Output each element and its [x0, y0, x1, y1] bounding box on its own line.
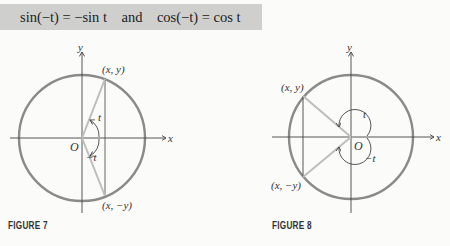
x-axis-label: x	[435, 131, 441, 143]
figure-7-caption: FIGURE 7	[8, 220, 48, 231]
upper-point-label: (x, y)	[102, 63, 125, 76]
origin-label: O	[354, 139, 363, 153]
y-axis-label: y	[346, 41, 352, 53]
radius-neg-t	[303, 137, 351, 177]
radius-neg-t	[82, 138, 105, 196]
angle-neg-t-label: −t	[365, 152, 376, 164]
angle-t-label: t	[98, 111, 102, 123]
figures-canvas: y x O (x, y) (x, −y) t −t y x O (x, y) (…	[0, 0, 450, 246]
figure-7-diagram: y x O (x, y) (x, −y) t −t	[10, 41, 173, 213]
radius-t	[303, 96, 351, 137]
angle-neg-t-label: −t	[86, 151, 97, 163]
figure-8-caption: FIGURE 8	[272, 220, 312, 231]
upper-point-label: (x, y)	[281, 81, 304, 94]
y-axis-label: y	[77, 41, 83, 53]
radius-t	[82, 79, 105, 138]
x-axis-label: x	[167, 132, 173, 144]
figure-8-diagram: y x O (x, y) (x, −y) t −t	[271, 41, 441, 213]
origin-label: O	[70, 140, 79, 154]
lower-point-label: (x, −y)	[271, 179, 301, 192]
lower-point-label: (x, −y)	[102, 199, 132, 212]
